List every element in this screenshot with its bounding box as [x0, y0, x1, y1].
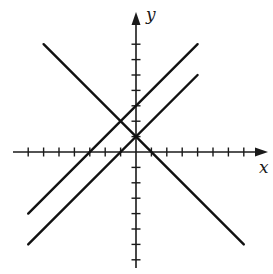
- upper-ascending-line: [28, 44, 197, 213]
- x-axis-label: x: [259, 157, 269, 177]
- y-axis-label: y: [145, 4, 156, 24]
- lower-ascending-line: [28, 75, 197, 244]
- x-axis-arrow-icon: [255, 148, 268, 157]
- y-axis-arrow-icon: [132, 12, 141, 25]
- descending-line: [44, 44, 244, 244]
- coordinate-plane: y x: [0, 0, 273, 274]
